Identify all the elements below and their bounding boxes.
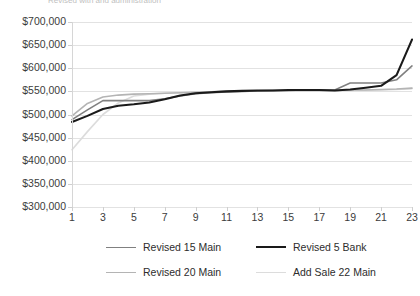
x-axis-tick-label: 15 xyxy=(278,212,298,223)
x-axis-tick xyxy=(165,207,166,211)
legend-label: Revised 5 Bank xyxy=(293,241,367,253)
legend-item[interactable]: Revised 15 Main xyxy=(106,241,221,253)
x-axis-tick xyxy=(227,207,228,211)
x-axis-tick xyxy=(72,207,73,211)
legend-item[interactable]: Revised 5 Bank xyxy=(256,241,367,253)
x-axis-tick-label: 1 xyxy=(62,212,82,223)
x-axis-tick xyxy=(257,207,258,211)
legend-swatch-icon xyxy=(106,272,136,273)
x-axis-tick-label: 11 xyxy=(217,212,237,223)
x-axis-tick xyxy=(288,207,289,211)
legend-label: Revised 20 Main xyxy=(143,266,221,278)
legend-swatch-icon xyxy=(106,247,136,248)
x-axis-tick xyxy=(134,207,135,211)
x-axis-tick-label: 23 xyxy=(402,212,420,223)
x-axis-tick-label: 5 xyxy=(124,212,144,223)
x-axis-tick-label: 9 xyxy=(186,212,206,223)
x-axis-tick xyxy=(412,207,413,211)
x-axis-tick xyxy=(196,207,197,211)
legend-item[interactable]: Add Sale 22 Main xyxy=(256,266,376,278)
legend-label: Revised 15 Main xyxy=(143,241,221,253)
x-axis-tick xyxy=(103,207,104,211)
legend-item[interactable]: Revised 20 Main xyxy=(106,266,221,278)
x-axis-tick xyxy=(381,207,382,211)
legend: Revised 15 MainRevised 5 BankRevised 20 … xyxy=(0,238,420,296)
x-axis-tick xyxy=(319,207,320,211)
legend-swatch-icon xyxy=(256,246,286,248)
x-axis-tick-label: 17 xyxy=(309,212,329,223)
line-chart: Revised with and administration $700,000… xyxy=(0,0,420,296)
legend-label: Add Sale 22 Main xyxy=(293,266,376,278)
x-axis-tick-label: 7 xyxy=(155,212,175,223)
x-axis-tick-label: 13 xyxy=(247,212,267,223)
x-axis-tick-label: 21 xyxy=(371,212,391,223)
legend-swatch-icon xyxy=(256,272,286,273)
x-axis-tick-label: 3 xyxy=(93,212,113,223)
x-axis-tick-label: 19 xyxy=(340,212,360,223)
x-axis-tick xyxy=(350,207,351,211)
